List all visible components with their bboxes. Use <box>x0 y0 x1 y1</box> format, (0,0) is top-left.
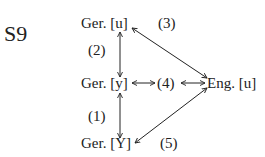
arrows <box>0 0 265 157</box>
arrow-5 <box>135 88 207 143</box>
arrow-3 <box>132 28 207 78</box>
